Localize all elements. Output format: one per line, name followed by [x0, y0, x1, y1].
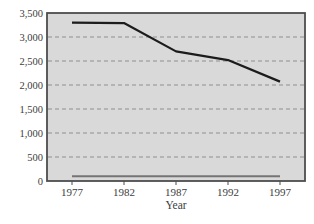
y-tick-label-3500: 3,500: [19, 8, 43, 19]
line-chart-figure: 05001,0001,5002,0002,5003,0003,500197719…: [0, 0, 314, 224]
y-tick-label-2000: 2,000: [19, 80, 43, 91]
x-tick-label-1: 1982: [113, 186, 135, 198]
x-tick-label-3: 1992: [217, 186, 239, 198]
y-tick-label-0: 0: [38, 176, 43, 187]
y-tick-label-3000: 3,000: [19, 32, 43, 43]
chart-canvas: 05001,0001,5002,0002,5003,0003,500197719…: [0, 0, 314, 224]
x-tick-label-4: 1997: [269, 186, 292, 198]
x-tick-label-2: 1987: [165, 186, 188, 198]
plot-area: [47, 13, 305, 181]
y-tick-label-500: 500: [27, 152, 43, 163]
y-tick-label-1500: 1,500: [19, 104, 43, 115]
y-tick-label-2500: 2,500: [19, 56, 43, 67]
x-axis-title: Year: [165, 199, 186, 211]
x-tick-label-0: 1977: [61, 186, 84, 198]
y-tick-label-1000: 1,000: [19, 128, 43, 139]
